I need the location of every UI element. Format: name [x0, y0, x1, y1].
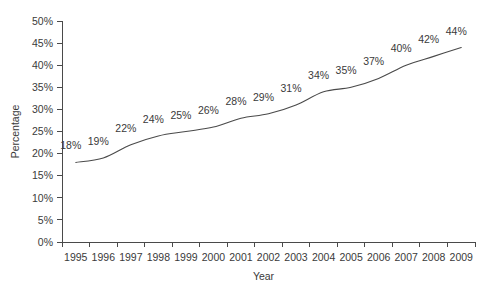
data-point-label: 37% [363, 55, 384, 67]
y-tick-label: 10% [32, 192, 53, 204]
y-tick-label: 25% [32, 125, 53, 137]
x-tick-label: 2005 [339, 251, 363, 263]
x-tick-label: 2008 [422, 251, 446, 263]
data-point-label: 26% [198, 104, 219, 116]
data-point-label: 22% [115, 122, 136, 134]
chart-canvas: 0%5%10%15%20%25%30%35%40%45%50% 19951996… [0, 0, 489, 299]
x-tick-label: 2006 [367, 251, 391, 263]
y-tick-label: 50% [32, 15, 53, 27]
x-axis: 1995199619971998199920002001200220032004… [62, 242, 475, 263]
x-tick-label: 1998 [147, 251, 171, 263]
data-point-label: 29% [253, 91, 274, 103]
x-tick-label: 2007 [394, 251, 418, 263]
x-tick-label: 2000 [202, 251, 226, 263]
y-tick-label: 15% [32, 169, 53, 181]
x-tick-label: 2003 [284, 251, 308, 263]
data-point-label: 42% [418, 33, 439, 45]
data-point-labels: 18%19%22%24%25%26%28%29%31%34%35%37%40%4… [60, 25, 466, 152]
x-tick-label: 2009 [450, 251, 474, 263]
data-point-label: 28% [225, 95, 246, 107]
data-point-label: 19% [88, 135, 109, 147]
data-point-label: 40% [391, 42, 412, 54]
x-tick-label: 1996 [92, 251, 116, 263]
y-tick-label: 45% [32, 37, 53, 49]
data-point-label: 24% [143, 113, 164, 125]
y-tick-label: 40% [32, 59, 53, 71]
x-tick-label: 2004 [312, 251, 336, 263]
data-point-label: 44% [446, 25, 467, 37]
data-series-line [76, 48, 461, 163]
x-tick-label: 2002 [257, 251, 281, 263]
line-chart: 0%5%10%15%20%25%30%35%40%45%50% 19951996… [0, 0, 489, 299]
x-axis-title: Year [253, 270, 275, 282]
data-point-label: 34% [308, 69, 329, 81]
y-tick-label: 5% [38, 214, 53, 226]
y-tick-label: 0% [38, 236, 53, 248]
y-tick-label: 35% [32, 81, 53, 93]
y-axis: 0%5%10%15%20%25%30%35%40%45%50% [32, 15, 62, 248]
data-point-label: 31% [281, 82, 302, 94]
x-tick-label: 1999 [174, 251, 198, 263]
y-axis-title: Percentage [9, 104, 21, 158]
y-tick-label: 20% [32, 147, 53, 159]
data-point-label: 35% [336, 64, 357, 76]
x-tick-label: 1995 [64, 251, 88, 263]
data-point-label: 18% [60, 139, 81, 151]
x-tick-label: 2001 [229, 251, 253, 263]
x-tick-label: 1997 [119, 251, 143, 263]
y-tick-label: 30% [32, 103, 53, 115]
data-point-label: 25% [170, 109, 191, 121]
